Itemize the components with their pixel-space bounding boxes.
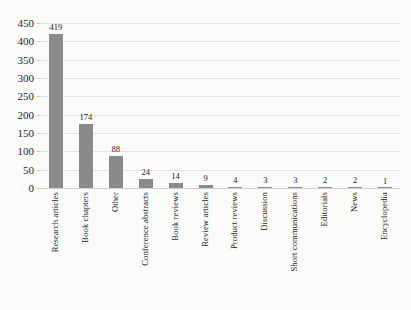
bar-value-label: 88 [112, 145, 121, 154]
y-axis-tick-labels: 450400350300250200150100500 [0, 23, 37, 188]
bar-value-label: 14 [171, 172, 180, 181]
bar-chart: 450400350300250200150100500 419174882414… [0, 0, 411, 310]
y-axis-tick-label: 200 [0, 110, 34, 120]
y-axis-tick-label: 400 [0, 36, 34, 46]
bar-value-label: 1 [383, 177, 387, 186]
bar-value-label: 2 [323, 176, 327, 185]
x-axis-category-label: Conference abstracts [141, 192, 150, 266]
y-axis-tick-label: 150 [0, 128, 34, 138]
bar[interactable] [348, 187, 362, 188]
y-axis-tick-label: 250 [0, 91, 34, 101]
x-axis-category-label: Other [111, 192, 120, 212]
bar-slot: 9 [191, 23, 221, 188]
bar[interactable] [169, 183, 183, 188]
bar[interactable] [378, 187, 392, 188]
bar-value-label: 3 [263, 176, 267, 185]
bar-slot: 3 [250, 23, 280, 188]
bar-slot: 2 [310, 23, 340, 188]
bar-value-label: 2 [353, 176, 357, 185]
bar[interactable] [228, 187, 242, 188]
y-axis-tick [37, 188, 41, 189]
x-axis-category-label: Discussion [260, 192, 269, 231]
x-axis-category-label: Product reviews [230, 192, 239, 249]
x-axis-category-label: Book chapters [81, 192, 90, 243]
y-axis-tick-label: 0 [0, 183, 34, 193]
bar[interactable] [109, 156, 123, 188]
bar[interactable] [318, 187, 332, 188]
bar-value-label: 419 [50, 23, 63, 32]
bar[interactable] [79, 124, 93, 188]
plot-area: 4191748824149433221 [41, 23, 400, 188]
bar-value-label: 4 [233, 176, 237, 185]
bar-slot: 24 [131, 23, 161, 188]
y-axis-tick-label: 50 [0, 165, 34, 175]
bar[interactable] [139, 179, 153, 188]
x-axis-category-label: News [350, 192, 359, 212]
bar-slot: 88 [101, 23, 131, 188]
x-axis-category-label: Research articles [51, 192, 60, 252]
bar-slot: 3 [280, 23, 310, 188]
bar[interactable] [199, 185, 213, 188]
y-axis-tick-label: 350 [0, 55, 34, 65]
bar-slot: 2 [340, 23, 370, 188]
bar-value-label: 24 [141, 168, 150, 177]
y-axis-tick-label: 100 [0, 146, 34, 156]
bar-slot: 174 [71, 23, 101, 188]
axis-baseline [41, 188, 400, 189]
x-axis-category-labels: Research articlesBook chaptersOtherConfe… [41, 192, 400, 308]
bar-slot: 1 [370, 23, 400, 188]
bar-series: 4191748824149433221 [41, 23, 400, 188]
bar[interactable] [258, 187, 272, 188]
bar-value-label: 174 [79, 113, 92, 122]
x-axis-category-label: Short communications [290, 192, 299, 272]
bar-slot: 419 [41, 23, 71, 188]
x-axis-category-label: Encyclopedia [380, 192, 389, 240]
bar[interactable] [288, 187, 302, 188]
x-axis-category-label: Book reviews [171, 192, 180, 241]
bar-value-label: 3 [293, 176, 297, 185]
y-axis-tick-label: 300 [0, 73, 34, 83]
bar-slot: 4 [221, 23, 251, 188]
bar-value-label: 9 [203, 174, 207, 183]
x-axis-category-label: Review articles [201, 192, 210, 247]
y-axis-tick-label: 450 [0, 18, 34, 28]
bar[interactable] [49, 34, 63, 188]
x-axis-category-label: Editorials [320, 192, 329, 226]
bar-slot: 14 [161, 23, 191, 188]
